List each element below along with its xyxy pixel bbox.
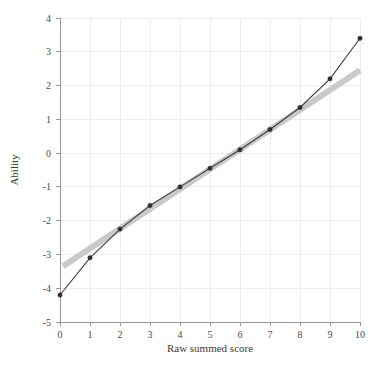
x-tick-label: 1 (88, 329, 93, 340)
y-axis-title: Ability (8, 154, 20, 186)
x-tick-label: 4 (178, 329, 183, 340)
x-tick-label: 3 (148, 329, 153, 340)
data-point-marker (298, 105, 302, 109)
x-tick-label: 2 (118, 329, 123, 340)
data-point-marker (118, 227, 122, 231)
y-tick-label: 2 (46, 80, 51, 91)
x-tick-labels-group: 012345678910 (58, 329, 366, 340)
y-tick-label: 1 (46, 114, 51, 125)
y-tick-label: 0 (46, 148, 51, 159)
y-tick-group (56, 18, 60, 322)
chart-canvas: 012345678910 -5-4-3-2-101234 Raw summed … (0, 0, 381, 367)
y-tick-label: -5 (43, 317, 51, 328)
data-point-marker (358, 36, 362, 40)
x-tick-group (60, 322, 360, 326)
x-tick-label: 9 (328, 329, 333, 340)
data-point-marker (58, 293, 62, 297)
y-tick-label: -1 (43, 181, 51, 192)
data-point-marker (88, 256, 92, 260)
y-tick-label: 4 (46, 13, 51, 24)
data-point-marker (148, 203, 152, 207)
x-axis-title: Raw summed score (167, 342, 253, 354)
x-tick-label: 0 (58, 329, 63, 340)
y-tick-label: -3 (43, 249, 51, 260)
y-tick-labels-group: -5-4-3-2-101234 (43, 13, 51, 328)
y-tick-label: 3 (46, 46, 51, 57)
data-point-marker (238, 148, 242, 152)
y-tick-label: -4 (43, 283, 51, 294)
data-point-marker (328, 77, 332, 81)
y-tick-label: -2 (43, 215, 51, 226)
chart-figure: 012345678910 -5-4-3-2-101234 Raw summed … (0, 0, 381, 367)
x-tick-label: 8 (298, 329, 303, 340)
x-tick-label: 10 (355, 329, 365, 340)
x-tick-label: 7 (268, 329, 273, 340)
x-tick-label: 6 (238, 329, 243, 340)
data-point-marker (268, 127, 272, 131)
data-point-marker (178, 185, 182, 189)
data-point-marker (208, 166, 212, 170)
x-tick-label: 5 (208, 329, 213, 340)
